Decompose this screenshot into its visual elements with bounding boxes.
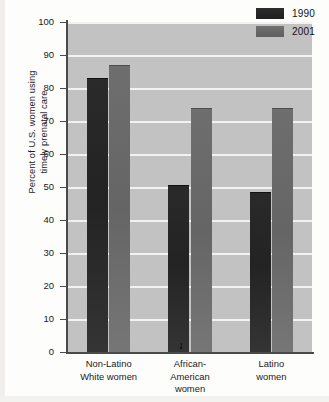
y-tick-label-100: 100 bbox=[0, 16, 54, 27]
x-axis-line bbox=[66, 352, 314, 354]
y-tick-label-30: 30 bbox=[0, 247, 54, 258]
y-tick-label-40: 40 bbox=[0, 214, 54, 225]
x-category-label-3: Latinowomen bbox=[216, 358, 326, 383]
legend-label-2001: 2001 bbox=[292, 26, 315, 37]
y-tick-label-80: 80 bbox=[0, 82, 54, 93]
legend: 1990 2001 bbox=[256, 8, 315, 37]
legend-item-1990: 1990 bbox=[256, 8, 315, 19]
bar-2001-group-2 bbox=[191, 108, 212, 352]
x-axis-category-labels: Non-LatinoWhite womenAfrican-Americanwom… bbox=[68, 358, 312, 402]
legend-label-1990: 1990 bbox=[292, 8, 315, 19]
y-axis-tick-labels: 0102030405060708090100 bbox=[0, 0, 58, 402]
bar-2001-group-1 bbox=[109, 65, 130, 352]
y-tick-label-50: 50 bbox=[0, 181, 54, 192]
y-tick-label-60: 60 bbox=[0, 148, 54, 159]
x-category-label-3-line-2: women bbox=[216, 371, 326, 384]
y-tick-label-70: 70 bbox=[0, 115, 54, 126]
y-axis-line bbox=[66, 20, 68, 354]
x-category-label-3-line-1: Latino bbox=[216, 358, 326, 371]
legend-item-2001: 2001 bbox=[256, 26, 315, 37]
legend-swatch-icon-1990 bbox=[256, 8, 284, 19]
bar-1990-group-3 bbox=[250, 192, 271, 352]
bar-1990-group-1 bbox=[87, 78, 108, 352]
y-tick-label-0: 0 bbox=[0, 346, 54, 357]
bar-1990-group-2 bbox=[168, 185, 189, 352]
legend-swatch-icon-2001 bbox=[256, 26, 284, 37]
bars-layer bbox=[68, 22, 312, 352]
y-tick-label-90: 90 bbox=[0, 49, 54, 60]
y-tick-label-20: 20 bbox=[0, 280, 54, 291]
bar-2001-group-3 bbox=[272, 108, 293, 352]
y-tick-label-10: 10 bbox=[0, 313, 54, 324]
chart-figure: Percent of U.S. women using timely prena… bbox=[0, 0, 329, 402]
x-category-label-2-line-3: women bbox=[135, 383, 245, 396]
plot-area: ✓ bbox=[68, 22, 312, 352]
